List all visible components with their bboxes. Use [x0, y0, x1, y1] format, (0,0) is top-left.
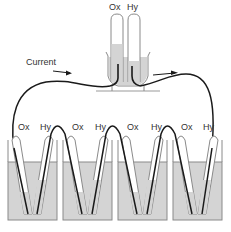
label-cell-1-ox: Ox	[18, 123, 30, 132]
label-cell-3-hy: Hy	[151, 123, 162, 132]
arrowhead-icon	[66, 71, 72, 76]
beaker	[63, 162, 112, 220]
label-current: Current	[26, 58, 56, 67]
beaker	[118, 162, 167, 220]
wire-out	[140, 74, 213, 148]
label-cell-4-ox: Ox	[181, 123, 193, 132]
top-hy-tube-liquid	[129, 61, 140, 82]
label-cell-2-hy: Hy	[95, 123, 106, 132]
label-cell-4-hy: Hy	[203, 123, 214, 132]
label-cell-2-ox: Ox	[72, 123, 84, 132]
electrolysis-series-diagram: Ox Hy Current Ox Hy Ox Hy Ox Hy Ox Hy	[0, 0, 231, 232]
beaker	[173, 162, 222, 220]
tubes	[12, 136, 218, 214]
beaker	[8, 162, 57, 220]
top-electrolysis-cell	[96, 14, 160, 91]
diagram-canvas	[0, 0, 231, 232]
label-cell-3-ox: Ox	[127, 123, 139, 132]
label-top-hy: Hy	[127, 3, 138, 12]
label-cell-1-hy: Hy	[40, 123, 51, 132]
top-ox-tube-liquid	[112, 44, 123, 82]
label-top-ox: Ox	[109, 3, 121, 12]
wire-in	[13, 81, 110, 148]
